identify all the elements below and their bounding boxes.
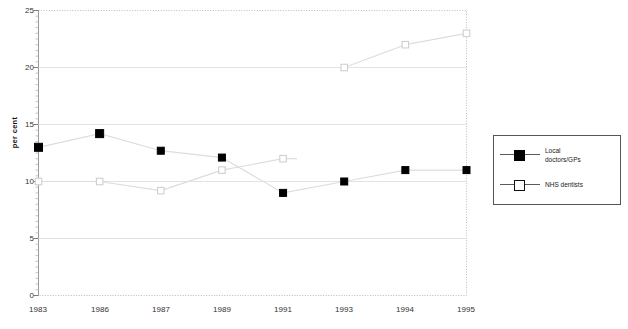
y-minor-ticks [34, 11, 39, 296]
legend-marker-filled-square-icon [500, 148, 540, 162]
data-point-nhs-dentists [402, 41, 409, 48]
plot-area [0, 0, 480, 329]
series-segment [161, 170, 222, 191]
data-point-nhs-dentists [463, 30, 470, 37]
data-point-nhs-dentists [158, 187, 165, 194]
chart-legend: Local doctors/GPs NHS dentists [493, 135, 621, 205]
data-point-local-doctors [402, 167, 409, 174]
data-point-local-doctors [463, 167, 470, 174]
series-segment [100, 182, 161, 191]
data-point-local-doctors [35, 143, 43, 151]
data-point-local-doctors [96, 130, 104, 138]
plot-frame [39, 11, 467, 296]
legend-label-nhs-dentists: NHS dentists [540, 180, 583, 189]
data-point-local-doctors [280, 189, 287, 196]
series-markers-local-doctors [35, 130, 471, 197]
data-point-nhs-dentists [219, 167, 226, 174]
series-segment [344, 45, 405, 68]
legend-entry-nhs-dentists: NHS dentists [500, 178, 618, 192]
data-point-nhs-dentists [96, 178, 103, 185]
data-point-nhs-dentists [280, 155, 287, 162]
data-point-local-doctors [218, 154, 225, 161]
chart-page: per cent 25 20 15 10 5 0 1983 1986 1987 … [0, 0, 628, 329]
data-point-nhs-dentists [341, 64, 348, 71]
series-segment [222, 159, 283, 170]
data-point-nhs-dentists [35, 178, 42, 185]
data-point-local-doctors [341, 178, 348, 185]
legend-marker-hollow-square-icon [500, 178, 540, 192]
legend-entry-local-doctors: Local doctors/GPs [500, 146, 618, 165]
data-point-local-doctors [157, 147, 164, 154]
legend-label-local-doctors: Local doctors/GPs [540, 146, 581, 165]
chart-container: per cent 25 20 15 10 5 0 1983 1986 1987 … [0, 0, 480, 329]
series-segment [405, 33, 466, 44]
gridlines [39, 68, 467, 239]
